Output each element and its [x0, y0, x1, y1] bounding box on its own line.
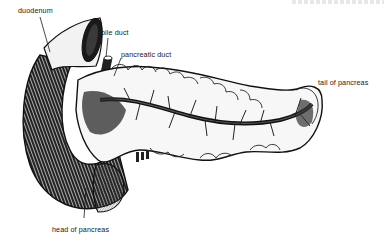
label-duodenum: duodenum	[18, 6, 53, 15]
label-pancreatic-duct: pancreatic duct	[121, 50, 171, 59]
label-tail-of-pancreas: tail of pancreas	[318, 78, 368, 87]
label-head-of-pancreas: head of pancreas	[52, 225, 109, 234]
pancreas-body-shape	[76, 64, 322, 162]
label-bile-duct: bile duct	[101, 28, 129, 37]
pancreas-illustration	[0, 0, 384, 242]
